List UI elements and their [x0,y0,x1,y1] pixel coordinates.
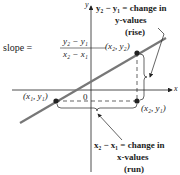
run-annotation-line2: x-values [117,153,149,162]
rise-annotation-line2: y-values [115,16,147,25]
y-axis-label: y [85,1,89,9]
x-axis-label: x [174,85,178,93]
formula-denominator: x₂ − x₁ [63,50,88,59]
point-x2-y2 [134,50,139,55]
point-label-x1-y1: (x₁, y₁) [23,92,48,101]
rise-annotation-line3: (rise) [125,28,145,37]
run-arrow [98,114,122,140]
run-annotation-line3: (run) [124,165,144,174]
point-label-x2-y1: (x₂, y₁) [141,104,166,113]
run-brace [57,104,137,111]
formula-numerator: y₂ − y₁ [63,37,88,46]
rise-arrow [150,28,164,77]
run-annotation-line1: x₂ − x₁ = change in [94,141,164,150]
rise-brace [140,54,147,100]
point-x2-y1 [134,98,139,103]
point-label-x2-y2: (x₂, y₂) [105,42,130,51]
slope-label: slope = [3,43,32,53]
origin-label: 0 [83,93,88,102]
point-x1-y1 [53,98,58,103]
rise-annotation-line1: y₂ − y₁ = change in [96,4,166,13]
